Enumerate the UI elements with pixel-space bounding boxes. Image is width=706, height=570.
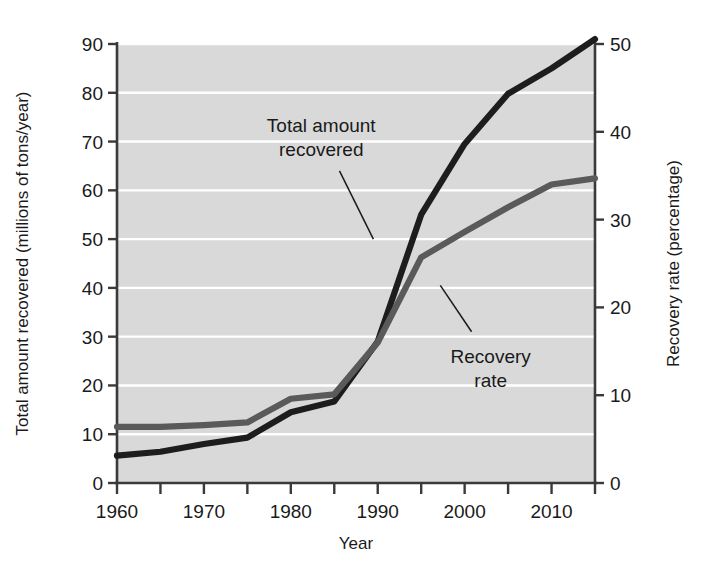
y2-axis-title: Recovery rate (percentage) [664,160,683,367]
y-axis-tick-label: 30 [82,327,103,348]
x-axis-tick-label: 1980 [270,501,312,522]
y2-axis-tick-label: 40 [610,122,631,143]
y-axis-tick-label: 70 [82,132,103,153]
annotation-line: rate [474,370,507,391]
y-axis-title: Total amount recovered (millions of tons… [13,92,32,436]
y-axis-tick-label: 20 [82,375,103,396]
y-axis-tick-label: 0 [92,473,103,494]
y2-axis-tick-label: 20 [610,297,631,318]
x-axis-tick-label: 1960 [96,501,138,522]
y-axis-tick-label: 10 [82,424,103,445]
x-axis-tick-label: 2010 [530,501,572,522]
chart-figure: 0102030405060708090010203040501960197019… [0,0,706,570]
y2-axis-tick-label: 0 [610,473,621,494]
x-axis-tick-label: 1970 [183,501,225,522]
annotation-line: Total amount [267,115,377,136]
y2-axis-tick-label: 50 [610,34,631,55]
y2-axis-tick-label: 30 [610,210,631,231]
x-axis-tick-label: 1990 [357,501,399,522]
annotation-line: Recovery [451,346,532,367]
y-axis-tick-label: 60 [82,180,103,201]
y-axis-tick-label: 50 [82,229,103,250]
y2-axis-tick-label: 10 [610,385,631,406]
x-axis-title: Year [339,534,374,553]
y-axis-tick-label: 40 [82,278,103,299]
plot-background [117,44,595,483]
annotation-line: recovered [279,139,364,160]
x-axis-tick-label: 2000 [443,501,485,522]
y-axis-tick-label: 90 [82,34,103,55]
line-chart: 0102030405060708090010203040501960197019… [0,0,706,570]
y-axis-tick-label: 80 [82,83,103,104]
